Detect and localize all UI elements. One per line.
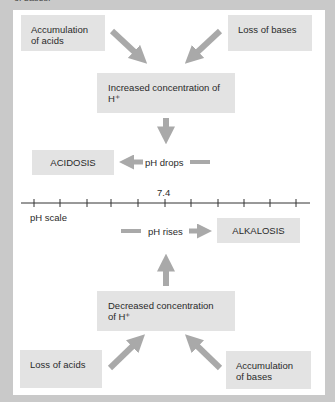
ph-scale-axis xyxy=(21,199,310,207)
arrow-down-right-icon xyxy=(112,31,141,58)
arrow-up-left-icon xyxy=(191,340,220,368)
arrow-down-left-icon xyxy=(191,31,220,58)
arrow-left-icon xyxy=(126,160,210,164)
diagram-graphics xyxy=(0,0,335,402)
arrow-right-icon xyxy=(121,229,205,233)
arrow-up-right-icon xyxy=(110,340,139,368)
